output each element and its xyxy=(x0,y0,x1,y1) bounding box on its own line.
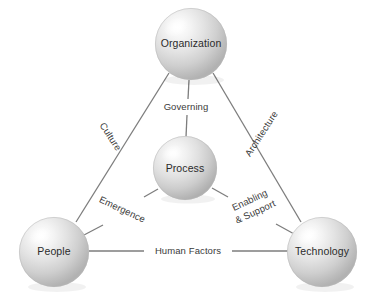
edge-label-governing: Governing xyxy=(164,101,209,112)
node-label-technology: Technology xyxy=(295,245,350,257)
node-technology[interactable]: Technology xyxy=(287,217,357,292)
edge-label-human-factors: Human Factors xyxy=(155,245,221,256)
node-people[interactable]: People xyxy=(19,217,89,292)
diagram-canvas: Organization Process People Technology xyxy=(0,0,374,304)
node-process[interactable]: Process xyxy=(153,136,217,204)
diagram-svg: Organization Process People Technology xyxy=(0,0,374,304)
node-label-process: Process xyxy=(166,162,205,174)
edge-label-culture: Culture xyxy=(98,120,124,152)
node-organization[interactable]: Organization xyxy=(155,8,227,85)
node-label-people: People xyxy=(37,245,70,257)
edge-line-emergence-lower xyxy=(84,225,103,235)
edge-label-emergence: Emergence xyxy=(98,194,147,225)
edge-label-enabling-support: Enabling & Support xyxy=(228,186,277,226)
edge-line-governing-lower xyxy=(186,115,187,137)
edge-line-emergence-upper xyxy=(144,189,158,197)
edge-line-enabling-upper xyxy=(212,188,228,197)
node-label-organization: Organization xyxy=(161,37,222,49)
